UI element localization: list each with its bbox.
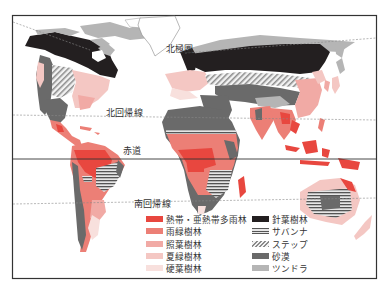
legend-item-deciduous-forest: 夏緑樹林 [146,250,247,262]
tropic-of-cancer-label: 北回帰線 [106,109,143,118]
swatch-icon [146,241,163,247]
legend-col-left: 熱帯・亜熱帯多雨林 雨緑樹林 照葉樹林 夏緑樹林 硬葉樹林 [146,213,247,274]
swatch-icon [252,253,269,259]
legend-item-laurel-forest: 照葉樹林 [146,238,247,250]
legend-col-right: 針葉樹林 サバンナ ステップ 砂漠 ツンドラ [252,213,308,274]
swatch-icon [252,241,269,247]
legend: 熱帯・亜熱帯多雨林 雨緑樹林 照葉樹林 夏緑樹林 硬葉樹林 針葉樹林 サバンナ [146,213,346,275]
tropic-of-capricorn-label: 南回帰線 [134,200,171,209]
swatch-icon [146,228,163,234]
equator-label: 赤道 [123,147,141,156]
legend-item-tundra: ツンドラ [252,262,308,274]
legend-item-tropical-rainforest: 熱帯・亜熱帯多雨林 [146,213,247,225]
legend-item-steppe: ステップ [252,238,308,250]
swatch-icon [146,265,163,271]
legend-item-sclerophyll-forest: 硬葉樹林 [146,262,247,274]
arctic-circle-label: 北極圏 [166,45,194,54]
swatch-icon [252,216,269,222]
legend-item-coniferous-forest: 針葉樹林 [252,213,308,225]
swatch-icon [146,216,163,222]
legend-item-savanna: サバンナ [252,225,308,237]
legend-item-rain-green-forest: 雨緑樹林 [146,225,247,237]
legend-item-desert: 砂漠 [252,250,308,262]
swatch-icon [252,228,269,234]
swatch-icon [252,265,269,271]
swatch-icon [146,253,163,259]
